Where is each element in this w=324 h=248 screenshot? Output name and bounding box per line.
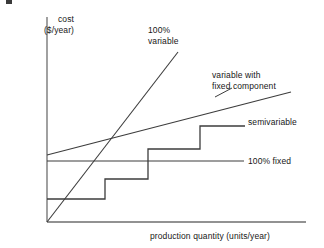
series-step-semivariable <box>47 126 245 199</box>
series-line-100-percent-variable <box>47 52 178 222</box>
annotation-variable-with-fixed-component: variable withfixed component <box>212 70 316 91</box>
annotation-100-percent-variable-line1: 100% <box>148 25 170 35</box>
annotation-100-percent-variable: 100%variable <box>148 25 212 46</box>
annotation-variable-with-fixed-component-line2: fixed component <box>212 81 276 91</box>
annotation-semivariable: semivariable <box>248 117 322 128</box>
annotation-100-percent-variable-line2: variable <box>148 36 179 46</box>
y-axis-label-line1: cost <box>58 14 74 24</box>
annotation-100-percent-fixed: 100% fixed <box>248 156 318 167</box>
cost-behavior-chart: cost($/year) production quantity (units/… <box>0 0 324 248</box>
y-axis-label-line2: ($/year) <box>44 25 74 35</box>
x-axis-label: production quantity (units/year) <box>150 231 318 242</box>
annotation-variable-with-fixed-component-line1: variable with <box>212 70 261 80</box>
y-axis-label: cost($/year) <box>18 14 74 35</box>
